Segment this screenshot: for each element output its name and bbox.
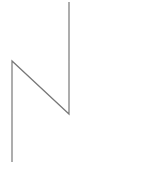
zigzag-diagram (0, 0, 141, 171)
zigzag-line (12, 2, 69, 162)
caption (0, 163, 141, 171)
